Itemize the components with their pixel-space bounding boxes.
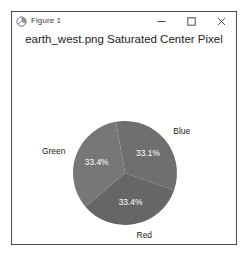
pie-chart-svg: 33.1%33.4%33.4% BlueRedGreen xyxy=(12,48,236,244)
pie-slice-percent: 33.4% xyxy=(119,197,143,207)
pie-slice-percent: 33.4% xyxy=(85,157,109,167)
pie-slice-label: Green xyxy=(42,146,66,156)
window-title: Figure 1 xyxy=(31,17,61,25)
pie-chart: 33.1%33.4%33.4% BlueRedGreen xyxy=(12,48,236,244)
pie-slice-percent: 33.1% xyxy=(136,148,160,158)
close-button[interactable] xyxy=(206,12,236,30)
chart-title: earth_west.png Saturated Center Pixel xyxy=(12,33,236,46)
minimize-button[interactable] xyxy=(146,12,176,30)
window-controls xyxy=(146,12,236,30)
maximize-button[interactable] xyxy=(176,12,206,30)
pie-slice-label: Red xyxy=(137,230,153,240)
matplotlib-figure-icon xyxy=(16,16,27,27)
pie-slices xyxy=(73,121,177,225)
window-title-bar[interactable]: Figure 1 xyxy=(12,12,236,30)
figure-window: Figure 1 xyxy=(11,11,237,245)
figure-canvas: earth_west.png Saturated Center Pixel 33… xyxy=(12,30,236,244)
screenshot-root: Figure 1 xyxy=(0,0,248,261)
pie-slice-label: Blue xyxy=(173,126,190,136)
